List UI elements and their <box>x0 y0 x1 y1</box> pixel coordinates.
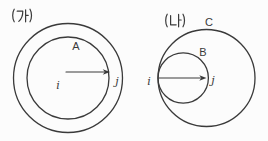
ga-caption-glyph <box>13 9 32 22</box>
na-caption-glyph <box>166 14 185 27</box>
na-inner-circle-label: B <box>199 47 206 58</box>
na-tangent-point-label: i <box>147 76 151 87</box>
ga-outer-circle <box>14 24 123 133</box>
na-caption-open-paren <box>166 14 168 27</box>
na-outer-circle-label: C <box>205 17 213 28</box>
ga-caption-open-paren <box>13 9 15 22</box>
ga-caption-close-paren <box>30 9 32 22</box>
ga-inner-circle <box>27 37 109 119</box>
ga-caption-giyeok-stroke <box>17 11 23 21</box>
na-caption-nieun-stroke <box>171 16 177 25</box>
na-caption-a-vowel-stroke <box>179 14 182 26</box>
two-circle-figures-diagram <box>0 0 268 141</box>
ga-center-point-label: i <box>56 80 60 91</box>
figure-ga-group <box>13 9 123 132</box>
na-arrow-tip-label: j <box>211 75 214 86</box>
diagram-canvas: A i j C B i j <box>0 0 268 141</box>
ga-caption-a-vowel-stroke <box>26 10 29 22</box>
ga-inner-circle-label: A <box>72 41 79 52</box>
na-caption-close-paren <box>183 14 185 27</box>
figure-na-group <box>158 14 255 126</box>
ga-arrow-tip-label: j <box>115 76 118 87</box>
